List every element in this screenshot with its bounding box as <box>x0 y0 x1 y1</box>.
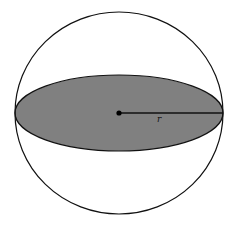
center-point <box>116 110 121 115</box>
radius-label: r <box>157 114 162 124</box>
sphere-diagram: r <box>0 0 234 225</box>
